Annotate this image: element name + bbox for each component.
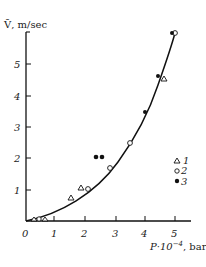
legend-open-circle-icon [175, 169, 179, 173]
fit-curve [26, 33, 175, 221]
y-tick-label: 2 [13, 153, 20, 164]
y-tick-label: 5 [14, 59, 20, 70]
x-tick-labels: 0 1 2 3 4 5 [22, 228, 177, 239]
data-point-filled-circle [156, 74, 160, 78]
y-axis-title: V̄, m/sec [3, 19, 47, 30]
legend-label-2: 2 [180, 165, 187, 176]
data-point-triangle [161, 76, 167, 81]
data-point-triangle [42, 217, 48, 221]
series-1-points [31, 76, 167, 221]
series-3-points [94, 31, 174, 159]
legend-filled-circle-icon [175, 179, 179, 183]
x-tick-label: 4 [140, 228, 147, 239]
data-point-open-circle [108, 166, 113, 171]
x-tick-label: 0 [22, 228, 29, 239]
data-point-triangle [78, 185, 84, 190]
series-2-points [37, 31, 178, 222]
data-point-filled-circle [100, 155, 105, 160]
y-tick-label: 1 [14, 185, 20, 196]
data-point-filled-circle [94, 155, 99, 160]
x-tick-label: 1 [51, 228, 57, 239]
y-ticks [26, 64, 31, 190]
x-axis-title: P·10−4, bar [149, 240, 206, 252]
x-tick-label: 5 [171, 228, 177, 239]
chart: 1 2 3 4 5 0 1 2 3 4 5 V̄, m/sec P·10−4, … [0, 0, 206, 267]
data-point-filled-circle [143, 110, 147, 114]
data-point-triangle [68, 195, 74, 200]
legend-label-3: 3 [181, 176, 187, 187]
legend-triangle-icon [174, 158, 180, 163]
data-point-open-circle [86, 187, 91, 192]
y-tick-labels: 1 2 3 4 5 [13, 59, 20, 196]
data-point-open-circle [128, 141, 133, 146]
x-ticks [54, 216, 175, 221]
data-point-open-circle [37, 217, 41, 221]
legend: 1 2 3 [174, 155, 189, 187]
data-point-filled-circle [170, 31, 174, 35]
x-tick-label: 2 [80, 228, 87, 239]
y-tick-label: 4 [13, 91, 20, 102]
y-tick-label: 3 [14, 122, 20, 133]
x-tick-label: 3 [112, 228, 118, 239]
